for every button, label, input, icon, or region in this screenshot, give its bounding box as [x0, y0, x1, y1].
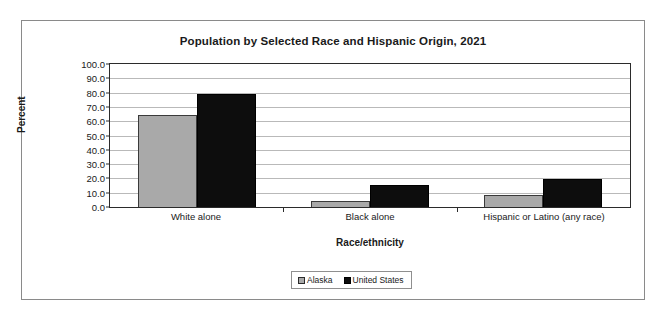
legend-swatch-icon [298, 277, 305, 284]
y-axis-tick-label: 70.0 [87, 101, 106, 112]
bar-group [283, 64, 456, 207]
bar-united-states[interactable] [197, 94, 256, 207]
x-axis-title: Race/ethnicity [109, 237, 631, 248]
bar-alaska[interactable] [311, 201, 370, 207]
x-axis-tick-label: Black alone [283, 211, 457, 222]
bars-layer [110, 64, 630, 207]
y-axis-tick-label: 50.0 [87, 130, 106, 141]
y-axis-tick-label: 60.0 [87, 116, 106, 127]
y-axis-tick-label: 80.0 [87, 87, 106, 98]
bar-united-states[interactable] [543, 179, 602, 207]
plot-area: 100.090.080.070.060.050.040.030.020.010.… [109, 63, 631, 208]
bar-alaska[interactable] [484, 195, 543, 207]
legend-label: United States [353, 275, 404, 285]
legend-label: Alaska [307, 275, 333, 285]
x-axis-tick-labels: White aloneBlack aloneHispanic or Latino… [109, 211, 631, 222]
chart-figure-frame: Population by Selected Race and Hispanic… [21, 20, 645, 300]
legend-item[interactable]: United States [344, 275, 404, 285]
x-axis-tick-label: White alone [109, 211, 283, 222]
legend-item[interactable]: Alaska [298, 275, 333, 285]
chart-legend: AlaskaUnited States [291, 271, 412, 289]
y-axis-tick-label: 100.0 [81, 59, 105, 70]
y-axis-tick-label: 0.0 [92, 202, 105, 213]
y-axis-tick-label: 40.0 [87, 144, 106, 155]
y-axis-tick-label: 10.0 [87, 187, 106, 198]
y-axis-tick-label: 30.0 [87, 159, 106, 170]
chart-title: Population by Selected Race and Hispanic… [22, 35, 644, 47]
bar-alaska[interactable] [138, 115, 197, 207]
bar-group [457, 64, 630, 207]
y-axis-title: Percent [16, 96, 27, 133]
y-axis-tick-label: 20.0 [87, 173, 106, 184]
bar-group [110, 64, 283, 207]
x-axis-tick-label: Hispanic or Latino (any race) [457, 211, 631, 222]
legend-swatch-icon [344, 277, 351, 284]
bar-united-states[interactable] [370, 185, 429, 207]
y-axis-tick-label: 90.0 [87, 73, 106, 84]
